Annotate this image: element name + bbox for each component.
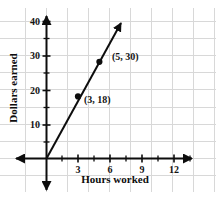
annotation-point-5-30: (5, 30) [112, 52, 139, 62]
data-point-marker [96, 59, 102, 65]
gridlines-vertical [26, 8, 215, 192]
y-tick-label-20: 20 [30, 86, 40, 96]
x-axis-title: Hours worked [81, 173, 149, 185]
x-tick-label-3: 3 [76, 165, 81, 175]
y-tick-label-40: 40 [30, 17, 40, 27]
y-tick-label-30: 30 [30, 51, 40, 61]
annotation-point-3-18: (3, 18) [84, 95, 111, 105]
coordinate-plane-chart: 40 30 20 10 3 6 9 12 (3, 18) (5, 30) Hou… [0, 0, 216, 198]
x-tick-label-12: 12 [169, 165, 179, 175]
data-point-marker [75, 93, 81, 99]
y-axis-title: Dollars earned [7, 53, 19, 122]
y-tick-label-10: 10 [30, 120, 40, 130]
